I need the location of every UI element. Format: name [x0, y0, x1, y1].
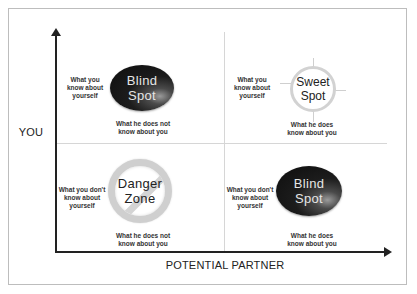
note-line: know about [232, 84, 272, 92]
note-line: What you [232, 76, 272, 84]
note-line: What he does [280, 232, 344, 240]
blind-spot-oval-icon: Blind Spot [110, 65, 174, 111]
arrow-up-icon [51, 28, 61, 36]
note-line: know about you [280, 129, 344, 137]
oval-label: Spot [128, 88, 156, 103]
blind-spot-oval-icon: Blind Spot [276, 166, 342, 216]
y-axis-line [55, 34, 57, 253]
note-line: know about [64, 84, 106, 92]
note-line: What he does [280, 121, 344, 129]
note-line: know about you [280, 240, 344, 248]
note-line: yourself [64, 92, 106, 100]
bottom-note: What he does not know about you [108, 120, 178, 136]
oval-label: Spot [295, 191, 323, 206]
note-line: What you don't [58, 186, 106, 194]
note-line: What you [64, 76, 106, 84]
oval-label: Blind [294, 176, 324, 191]
bottom-note: What he does know about you [280, 121, 344, 137]
note-line: know about [58, 194, 106, 202]
arrow-right-icon [384, 247, 392, 257]
note-line: know about you [108, 128, 178, 136]
target-label: Sweet [296, 75, 329, 89]
note-line: yourself [58, 202, 106, 210]
side-note: What you know about yourself [64, 76, 106, 100]
side-note: What you know about yourself [232, 76, 272, 100]
diagram-frame [8, 8, 407, 285]
side-note: What you don't know about yourself [58, 186, 106, 210]
note-line: know about [226, 194, 274, 202]
note-line: What you don't [226, 186, 274, 194]
x-axis-line [55, 251, 385, 253]
sign-label: Zone [125, 191, 156, 206]
note-line: What he does not [108, 232, 178, 240]
quadrant-divider-vertical [224, 32, 225, 251]
bottom-note: What he does not know about you [108, 232, 178, 248]
note-line: What he does not [108, 120, 178, 128]
note-line: yourself [232, 92, 272, 100]
note-line: yourself [226, 202, 274, 210]
bottom-note: What he does know about you [280, 232, 344, 248]
x-axis-label: POTENTIAL PARTNER [140, 259, 310, 271]
side-note: What you don't know about yourself [226, 186, 274, 210]
prohibition-sign-icon: Danger Zone [108, 159, 172, 223]
oval-label: Blind [127, 73, 157, 88]
target-label: Spot [301, 89, 326, 103]
y-axis-label: YOU [14, 126, 48, 138]
sign-label: Danger [118, 176, 162, 191]
note-line: know about you [108, 240, 178, 248]
quadrant-divider-horizontal [57, 143, 387, 144]
